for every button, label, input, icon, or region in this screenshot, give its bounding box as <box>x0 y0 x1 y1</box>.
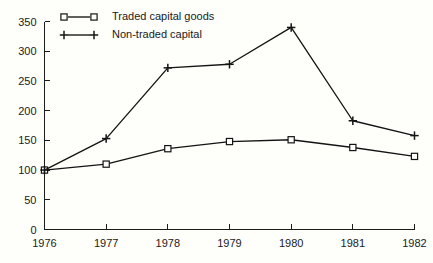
x-tick-label: 1977 <box>94 237 118 249</box>
plus-marker <box>349 117 357 125</box>
plus-marker <box>225 60 233 68</box>
chart-series-2 <box>40 23 418 174</box>
line-chart: 050100150200250300350 197619771978197919… <box>0 0 433 263</box>
x-tick-label: 1981 <box>341 237 365 249</box>
chart-container: 050100150200250300350 197619771978197919… <box>0 0 433 263</box>
legend-item-2: Non-traded capital <box>60 28 202 40</box>
y-tick-label: 200 <box>18 105 36 117</box>
legend-label: Non-traded capital <box>112 28 202 40</box>
x-axis-ticks <box>45 224 415 230</box>
plus-marker <box>410 131 418 139</box>
plus-marker <box>90 31 98 39</box>
legend-item-1: Traded capital goods <box>61 10 215 22</box>
chart-legend: Traded capital goodsNon-traded capital <box>60 10 215 40</box>
square-marker <box>165 146 171 152</box>
y-tick-label: 300 <box>18 45 36 57</box>
plus-marker <box>287 23 295 31</box>
square-marker <box>350 144 356 150</box>
y-tick-label: 350 <box>18 16 36 28</box>
y-tick-label: 150 <box>18 134 36 146</box>
x-tick-label: 1978 <box>156 237 180 249</box>
square-marker <box>288 137 294 143</box>
x-axis-tick-labels: 1976197719781979198019811982 <box>32 237 426 249</box>
y-tick-label: 0 <box>30 224 36 236</box>
x-tick-label: 1976 <box>32 237 56 249</box>
square-marker <box>61 14 67 20</box>
y-tick-label: 250 <box>18 75 36 87</box>
y-tick-label: 50 <box>24 194 36 206</box>
y-tick-label: 100 <box>18 164 36 176</box>
square-marker <box>411 153 417 159</box>
x-tick-label: 1980 <box>279 237 303 249</box>
y-axis-ticks <box>45 22 50 230</box>
chart-series-layer <box>40 23 418 174</box>
square-marker <box>226 138 232 144</box>
square-marker <box>91 14 97 20</box>
square-marker <box>103 161 109 167</box>
x-tick-label: 1979 <box>217 237 241 249</box>
legend-label: Traded capital goods <box>112 10 215 22</box>
plus-marker <box>60 31 68 39</box>
chart-axes: 050100150200250300350 197619771978197919… <box>18 16 427 249</box>
y-axis-tick-labels: 050100150200250300350 <box>18 16 36 236</box>
x-tick-label: 1982 <box>402 237 426 249</box>
